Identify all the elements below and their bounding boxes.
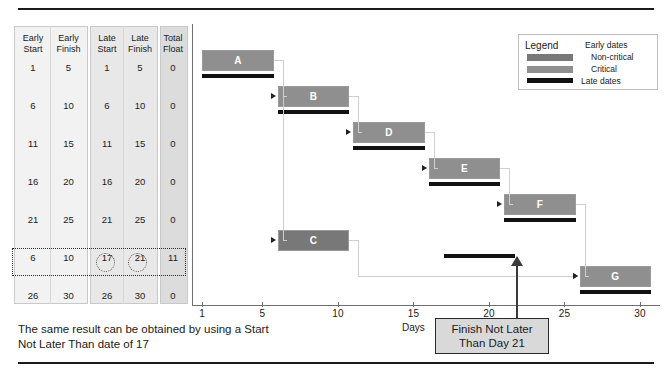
gantt-chart: ABDEFCG Days Legend Early dates Non-crit…	[192, 24, 660, 306]
task-bar-a[interactable]: A	[202, 50, 274, 71]
cell-late-start: 11	[91, 138, 123, 149]
callout-line-1: Finish Not Later	[451, 323, 532, 335]
legend-title: Legend	[525, 40, 558, 51]
cell-early-finish: 30	[51, 290, 86, 301]
cell-early-start: 26	[16, 290, 50, 301]
cell-late-finish: 25	[124, 214, 156, 225]
legend-swatch-late-dates	[527, 78, 573, 83]
cell-total-float: 0	[160, 290, 186, 301]
dependency-link	[358, 240, 359, 276]
x-tick-label: 15	[398, 308, 428, 319]
x-tick-label: 25	[549, 308, 579, 319]
late-start-circle	[96, 253, 115, 272]
cell-early-start: 6	[16, 100, 50, 111]
x-tick	[640, 302, 641, 307]
callout-line-2: Than Day 21	[459, 337, 525, 349]
cell-late-finish: 30	[124, 290, 156, 301]
legend-label-early-dates: Early dates	[585, 40, 628, 50]
dependency-arrow	[422, 165, 427, 171]
dependency-arrow	[271, 237, 276, 243]
dependency-arrow	[573, 273, 578, 279]
header-late-start: Late Start	[91, 33, 123, 54]
task-bar-f[interactable]: F	[504, 194, 576, 215]
task-bar-g[interactable]: G	[580, 266, 652, 287]
late-bar-a	[202, 74, 274, 78]
x-tick-label: 1	[187, 308, 217, 319]
dependency-link	[283, 60, 284, 240]
x-tick	[564, 302, 565, 307]
x-tick	[489, 302, 490, 307]
legend-label-critical: Critical	[591, 64, 617, 74]
cell-early-finish: 10	[51, 100, 86, 111]
task-bar-c[interactable]: C	[278, 230, 350, 251]
cell-early-start: 16	[16, 176, 50, 187]
x-tick-label: 10	[323, 308, 353, 319]
cell-late-finish: 10	[124, 100, 156, 111]
dependency-link	[283, 240, 287, 241]
dependency-arrow	[497, 201, 502, 207]
late-bar-b	[278, 110, 350, 114]
legend: Legend Early dates Non-critical Critical…	[518, 34, 658, 90]
dependency-link	[585, 276, 589, 277]
cell-early-finish: 15	[51, 138, 86, 149]
constraint-arrow-head	[511, 256, 523, 266]
dependency-link	[358, 276, 573, 277]
dependency-link	[509, 204, 513, 205]
x-tick	[413, 302, 414, 307]
x-tick	[202, 302, 203, 307]
task-bar-b[interactable]: B	[278, 86, 350, 107]
task-bar-d[interactable]: D	[353, 122, 425, 143]
constraint-arrow-shaft	[516, 264, 518, 320]
legend-swatch-critical	[527, 66, 573, 73]
cell-late-start: 21	[91, 214, 123, 225]
cell-late-finish: 5	[124, 62, 156, 73]
dependency-link	[349, 240, 358, 241]
cell-late-start: 1	[91, 62, 123, 73]
cell-early-finish: 5	[51, 62, 86, 73]
cell-early-start: 11	[16, 138, 50, 149]
cell-total-float: 0	[160, 214, 186, 225]
dependency-link	[434, 132, 435, 168]
cell-early-finish: 25	[51, 214, 86, 225]
dependency-link	[358, 132, 362, 133]
cell-late-start: 16	[91, 176, 123, 187]
late-bar-f	[504, 218, 576, 222]
late-bar-c	[444, 254, 516, 258]
dependency-link	[274, 60, 283, 61]
x-tick-label: 5	[247, 308, 277, 319]
late-bar-d	[353, 146, 425, 150]
x-tick	[262, 302, 263, 307]
cell-early-start: 1	[16, 62, 50, 73]
legend-label-non-critical: Non-critical	[591, 52, 634, 62]
constraint-callout: Finish Not Later Than Day 21	[435, 318, 549, 354]
cell-early-finish: 20	[51, 176, 86, 187]
legend-swatch-non-critical	[527, 54, 573, 61]
header-early-start: Early Start	[16, 33, 50, 54]
dependency-link	[576, 204, 585, 205]
legend-label-late-dates: Late dates	[581, 76, 621, 86]
cell-total-float: 0	[160, 138, 186, 149]
bottom-divider	[18, 362, 654, 364]
late-bar-g	[580, 290, 652, 294]
cell-late-finish: 15	[124, 138, 156, 149]
schedule-table: Early Start Early Finish Late Start Late…	[14, 26, 186, 304]
cell-total-float: 0	[160, 176, 186, 187]
dependency-arrow	[346, 129, 351, 135]
dependency-link	[349, 96, 358, 97]
task-bar-e[interactable]: E	[429, 158, 501, 179]
late-bar-e	[429, 182, 501, 186]
top-divider	[18, 8, 654, 10]
dependency-link	[434, 168, 438, 169]
header-late-finish: Late Finish	[124, 33, 156, 54]
late-finish-circle	[128, 253, 147, 272]
header-early-finish: Early Finish	[51, 33, 86, 54]
header-total-float: Total Float	[160, 33, 186, 54]
cell-late-finish: 20	[124, 176, 156, 187]
cell-total-float: 0	[160, 100, 186, 111]
dependency-arrow	[271, 93, 276, 99]
dependency-link	[585, 204, 586, 276]
dependency-link	[509, 168, 510, 204]
explanatory-note: The same result can be obtained by using…	[18, 322, 278, 352]
cell-late-start: 6	[91, 100, 123, 111]
dependency-link	[500, 168, 509, 169]
